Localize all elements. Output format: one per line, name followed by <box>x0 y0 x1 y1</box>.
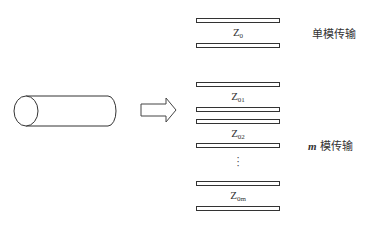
transmission-line-top-z0 <box>196 18 280 23</box>
impedance-label-z0: Z0 <box>196 26 280 40</box>
transmission-line-top-z01 <box>196 82 280 87</box>
impedance-label-z0m: Z0m <box>196 189 280 203</box>
transmission-line-bottom-z02 <box>196 143 280 148</box>
transmission-line-bottom-z01 <box>196 107 280 112</box>
right-arrow-icon <box>141 98 176 122</box>
mode-count-variable: m <box>308 140 317 152</box>
transmission-line-top-z02 <box>196 119 280 124</box>
single-mode-label: 单模传输 <box>312 25 356 41</box>
transmission-line-bottom-z0m <box>196 206 280 211</box>
transmission-line-bottom-z0 <box>196 43 280 48</box>
multi-mode-label: m 模传输 <box>308 137 353 153</box>
vertical-ellipsis: ··· <box>235 156 241 168</box>
impedance-label-z01: Z01 <box>196 90 280 104</box>
cable-cylinder-icon <box>14 96 116 126</box>
transmission-line-top-z0m <box>196 181 280 186</box>
impedance-label-z02: Z02 <box>196 127 280 141</box>
